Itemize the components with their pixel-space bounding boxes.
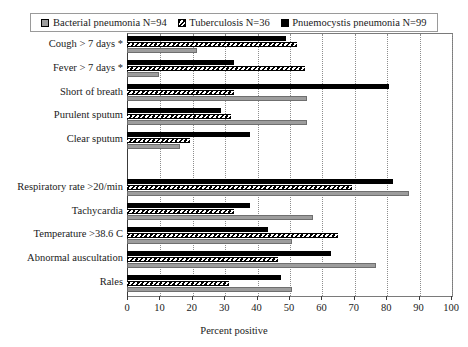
- x-tick-label: 100: [438, 302, 464, 313]
- x-tick: [321, 296, 322, 300]
- category-label: Fever > 7 days *: [0, 62, 123, 73]
- category-labels: Cough > 7 days *Fever > 7 days *Short of…: [0, 33, 468, 295]
- legend-item-pneumocystis: Pnuemocystis pneumonia N=99: [281, 17, 427, 28]
- legend-swatch-black-icon: [281, 19, 289, 27]
- category-label: Tachycardia: [0, 205, 123, 216]
- x-tick: [159, 296, 160, 300]
- category-label: Short of breath: [0, 86, 123, 97]
- category-label: Respiratory rate >20/min: [0, 181, 123, 192]
- category-label: Temperature >38.6 C: [0, 228, 123, 239]
- x-tick-label: 40: [244, 302, 270, 313]
- x-tick-label: 10: [146, 302, 172, 313]
- x-axis-title: Percent positive: [0, 325, 468, 336]
- legend-item-tuberculosis: Tuberculosis N=36: [178, 17, 270, 28]
- x-tick: [354, 296, 355, 300]
- category-label: Cough > 7 days *: [0, 38, 123, 49]
- legend-label-pneumocystis: Pnuemocystis pneumonia N=99: [292, 17, 426, 28]
- x-tick: [386, 296, 387, 300]
- legend-label-tuberculosis: Tuberculosis N=36: [189, 17, 270, 28]
- x-tick: [451, 296, 452, 300]
- x-tick-label: 50: [276, 302, 302, 313]
- x-tick: [224, 296, 225, 300]
- x-tick: [127, 296, 128, 300]
- chart-legend: Bacterial pneumonia N=94 Tuberculosis N=…: [30, 13, 438, 32]
- x-tick-label: 70: [341, 302, 367, 313]
- x-tick: [257, 296, 258, 300]
- category-label: Clear sputum: [0, 133, 123, 144]
- category-label: Purulent sputum: [0, 109, 123, 120]
- category-label: Abnormal auscultation: [0, 252, 123, 263]
- x-tick-label: 20: [179, 302, 205, 313]
- x-tick-label: 0: [114, 302, 140, 313]
- x-tick-label: 80: [373, 302, 399, 313]
- legend-label-bacterial: Bacterial pneumonia N=94: [53, 17, 167, 28]
- x-tick-label: 60: [308, 302, 334, 313]
- legend-swatch-hatched-icon: [178, 19, 186, 27]
- x-tick: [419, 296, 420, 300]
- x-tick: [192, 296, 193, 300]
- category-label: Rales: [0, 276, 123, 287]
- x-tick: [289, 296, 290, 300]
- legend-item-bacterial: Bacterial pneumonia N=94: [41, 17, 166, 28]
- x-tick-label: 30: [211, 302, 237, 313]
- legend-swatch-gray-icon: [41, 19, 49, 27]
- chart-figure: Bacterial pneumonia N=94 Tuberculosis N=…: [0, 0, 468, 347]
- x-tick-label: 90: [406, 302, 432, 313]
